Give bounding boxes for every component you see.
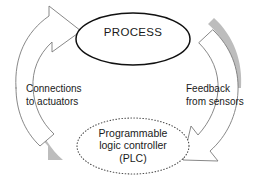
actuators-arrow-body: [16, 6, 81, 146]
diagram-canvas: [0, 0, 265, 184]
plc-cycle-diagram: PROCESS Programmable logic controller (P…: [0, 0, 265, 184]
process-node: [76, 13, 190, 65]
plc-node: [77, 118, 189, 174]
